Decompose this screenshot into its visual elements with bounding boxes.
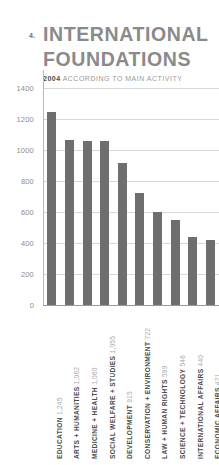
y-tick-label-1000: 1000 xyxy=(8,146,34,155)
y-tick-label-200: 200 xyxy=(8,270,34,279)
y-tick-label-800: 800 xyxy=(8,177,34,186)
bar xyxy=(100,141,109,305)
x-label-value: 1,245 xyxy=(56,397,63,415)
bar xyxy=(188,237,197,305)
chart-figure: 4. INTERNATIONAL FOUNDATIONS 2004 ACCORD… xyxy=(0,0,219,465)
y-tick-label-1200: 1200 xyxy=(8,115,34,124)
x-axis-label: DEVELOPMENT 915 xyxy=(126,391,133,459)
x-label-category: SOCIAL WELFARE + STUDIES xyxy=(109,353,116,459)
x-label-value: 722 xyxy=(144,328,151,340)
bar xyxy=(171,220,180,305)
bar xyxy=(153,212,162,305)
x-label-value: 1,060 xyxy=(91,367,98,385)
bar xyxy=(83,141,92,305)
x-label-value: 1,062 xyxy=(73,367,80,385)
x-label-category: EDUCATION xyxy=(56,415,63,459)
y-tick-label-1400: 1400 xyxy=(8,84,34,93)
x-axis-label: ECONOMIC AFFAIRS 421 xyxy=(214,374,219,459)
bar xyxy=(206,240,215,305)
x-label-category: MEDICINE + HEALTH xyxy=(91,385,98,459)
x-axis-label: LAW + HUMAN RIGHTS 599 xyxy=(161,365,168,459)
x-label-category: ARTS + HUMANITIES xyxy=(73,384,80,459)
gridline-0 xyxy=(43,305,219,306)
x-label-value: 599 xyxy=(161,365,168,377)
bar xyxy=(47,112,56,305)
x-label-category: SCIENCE + TECHNOLOGY xyxy=(179,367,186,459)
x-label-value: 440 xyxy=(197,355,204,367)
bar xyxy=(65,140,74,305)
x-label-category: CONSERVATION + ENVIRONMENT xyxy=(144,339,151,459)
x-label-category: DEVELOPMENT xyxy=(126,403,133,459)
y-tick-label-600: 600 xyxy=(8,208,34,217)
x-label-value: 421 xyxy=(214,374,219,386)
x-label-category: LAW + HUMAN RIGHTS xyxy=(161,377,168,459)
x-axis-label: ARTS + HUMANITIES 1,062 xyxy=(73,367,80,459)
x-axis-label: MEDICINE + HEALTH 1,060 xyxy=(91,367,98,459)
plot-area: 0200400600800100012001400 EDUCATION 1,24… xyxy=(0,0,219,465)
x-label-category: INTERNATIONAL AFFAIRS xyxy=(197,366,204,459)
x-label-value: 1,055 xyxy=(109,336,116,354)
x-axis-label: SOCIAL WELFARE + STUDIES 1,055 xyxy=(109,336,116,459)
x-axis-label: INTERNATIONAL AFFAIRS 440 xyxy=(197,355,204,459)
y-tick-label-400: 400 xyxy=(8,239,34,248)
x-axis-label: CONSERVATION + ENVIRONMENT 722 xyxy=(144,328,151,459)
x-label-value: 546 xyxy=(179,355,186,367)
y-tick-label-0: 0 xyxy=(8,301,34,310)
bar xyxy=(135,193,144,305)
x-label-value: 915 xyxy=(126,391,133,403)
x-label-category: ECONOMIC AFFAIRS xyxy=(214,385,219,459)
bar-series xyxy=(43,88,219,305)
bar xyxy=(118,163,127,305)
x-axis-label: EDUCATION 1,245 xyxy=(56,397,63,459)
x-axis-label: SCIENCE + TECHNOLOGY 546 xyxy=(179,355,186,459)
